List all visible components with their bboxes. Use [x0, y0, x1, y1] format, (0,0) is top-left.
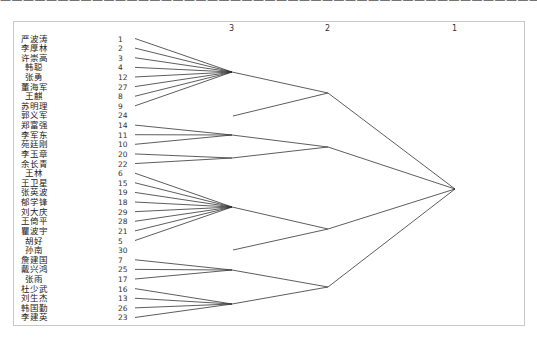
leaf-name: 余长青: [21, 159, 48, 169]
leaf-id: 13: [118, 294, 128, 303]
leaf-name: 李厚林: [21, 43, 48, 53]
leaf-id: 28: [118, 217, 128, 226]
tree-edge: [135, 154, 232, 158]
leaf-id: 19: [118, 188, 128, 197]
leaf-name: 孙南: [25, 245, 43, 255]
leaf-id: 6: [118, 169, 123, 178]
leaf-name: 严波涛: [21, 34, 48, 44]
leaf-name: 刘大庆: [21, 207, 48, 217]
leaf-id: 30: [118, 246, 128, 255]
leaf-id: 26: [118, 304, 128, 313]
leaf-name: 张英波: [21, 187, 48, 197]
tree-edge: [232, 147, 328, 158]
tree-edge: [135, 158, 232, 164]
tree-edges: [135, 39, 455, 318]
leaf-id: 25: [118, 265, 128, 274]
tree-edge: [135, 269, 232, 270]
leaf-name: 李军东: [21, 130, 48, 140]
leaf-name: 郁学锋: [21, 197, 48, 207]
leaf-name: 李建英: [21, 312, 48, 322]
leaf-id: 20: [118, 150, 128, 159]
leaf-id: 4: [118, 63, 123, 72]
leaf-name: 董海军: [21, 82, 48, 92]
level-axis-labels: 321: [229, 24, 457, 33]
leaf-name: 戴兴鸿: [21, 264, 48, 274]
tree-edge: [233, 229, 328, 250]
tree-edge: [135, 207, 232, 241]
leaf-name: 张勇: [25, 72, 43, 82]
tree-edge: [328, 189, 455, 287]
leaf-id: 17: [118, 275, 128, 284]
tree-edge: [135, 39, 232, 73]
leaf-name: 韩聪: [25, 62, 43, 72]
tree-edge: [328, 189, 455, 229]
tree-edge: [135, 173, 232, 207]
leaf-name: 王卫星: [21, 178, 48, 188]
tree-edge: [232, 207, 328, 229]
leaf-id: 1: [118, 35, 123, 44]
leaf-id: 7: [118, 256, 123, 265]
leaf-name: 詹建国: [21, 255, 48, 265]
tree-edge: [135, 125, 232, 135]
leaf-name: 许崇高: [21, 53, 48, 63]
level-label: 3: [229, 24, 234, 33]
leaf-id: 9: [118, 102, 123, 111]
leaf-id: 12: [118, 73, 128, 82]
leaf-id: 2: [118, 44, 123, 53]
leaf-labels: 严波涛1李厚林2许崇高3韩聪4张勇12董海军27王麒8苏明理9郭义军24郑富强1…: [21, 34, 128, 323]
leaf-name: 李玉章: [21, 149, 48, 159]
leaf-name: 王倚平: [21, 216, 48, 226]
leaf-id: 27: [118, 83, 128, 92]
tree-edge: [135, 289, 232, 304]
tree-edge: [328, 93, 455, 189]
tree-edge: [232, 135, 328, 147]
leaf-id: 23: [118, 313, 128, 322]
leaf-id: 5: [118, 237, 123, 246]
tree-edge: [135, 72, 232, 106]
leaf-name: 王林: [25, 168, 43, 178]
leaf-id: 10: [118, 140, 128, 149]
leaf-id: 3: [118, 54, 123, 63]
leaf-name: 韩国勤: [21, 303, 48, 313]
leaf-id: 8: [118, 92, 123, 101]
tree-edge: [135, 298, 232, 304]
tree-edge: [232, 72, 328, 93]
tree-edge: [233, 93, 328, 116]
tree-edge: [135, 135, 232, 144]
leaf-name: 王麒: [25, 91, 43, 101]
tree-edge: [135, 260, 232, 270]
tree-edge: [232, 270, 328, 287]
leaf-id: 16: [118, 285, 128, 294]
leaf-name: 刘生杰: [21, 293, 48, 303]
level-label: 1: [452, 24, 457, 33]
leaf-name: 杜少武: [21, 284, 48, 294]
leaf-id: 14: [118, 121, 128, 130]
leaf-name: 瞿波宇: [21, 226, 48, 236]
leaf-id: 11: [118, 131, 128, 140]
tree-edge: [328, 147, 455, 189]
leaf-name: 苑廷刚: [21, 139, 48, 149]
leaf-name: 苏明理: [21, 101, 48, 111]
leaf-name: 郑富强: [21, 120, 48, 130]
tree-edge: [135, 270, 232, 279]
leaf-name: 张雨: [25, 274, 43, 284]
leaf-id: 22: [118, 160, 128, 169]
leaf-id: 24: [118, 111, 128, 120]
level-label: 2: [325, 24, 330, 33]
leaf-id: 18: [118, 198, 128, 207]
leaf-name: 郭义军: [21, 110, 48, 120]
leaf-id: 15: [118, 179, 128, 188]
leaf-id: 21: [118, 227, 128, 236]
leaf-id: 29: [118, 208, 128, 217]
tree-edge: [232, 287, 328, 304]
leaf-name: 胡好: [25, 236, 43, 246]
dendrogram-chart: 321 严波涛1李厚林2许崇高3韩聪4张勇12董海军27王麒8苏明理9郭义军24…: [0, 0, 537, 343]
